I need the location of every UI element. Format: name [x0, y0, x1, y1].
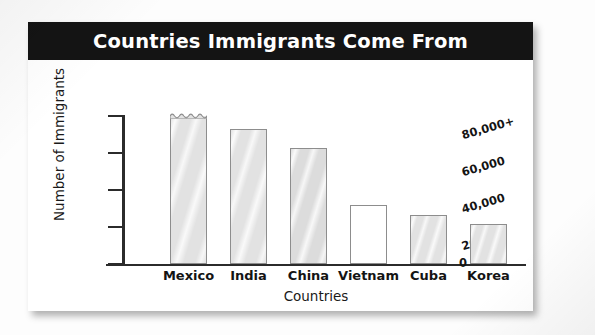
- bar-mexico[interactable]: [170, 116, 207, 264]
- broken-axis-scallop-icon: [170, 111, 207, 119]
- bar-cuba[interactable]: [410, 215, 447, 264]
- chart-card: Countries Immigrants Come From Number of…: [28, 22, 533, 311]
- chart-title: Countries Immigrants Come From: [93, 30, 468, 53]
- chart-title-band: Countries Immigrants Come From: [28, 22, 533, 60]
- bar-vietnam[interactable]: [350, 205, 387, 264]
- bar-india[interactable]: [230, 129, 267, 264]
- bars-layer: [28, 60, 533, 264]
- bar-korea[interactable]: [470, 224, 507, 264]
- bar-china[interactable]: [290, 148, 327, 264]
- bar-label-korea: Korea: [447, 268, 530, 283]
- x-axis-title: Countries: [106, 288, 526, 304]
- plot-area: Number of Immigrants 80,000+ 60,000 40,0…: [28, 60, 533, 311]
- scanned-page: Countries Immigrants Come From Number of…: [0, 0, 595, 335]
